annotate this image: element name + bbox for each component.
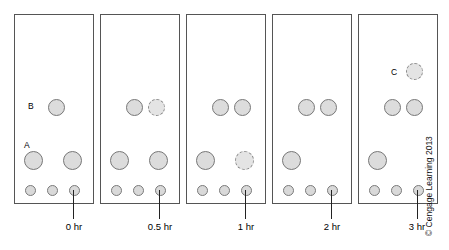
band-spot — [196, 151, 215, 170]
origin-spot — [111, 185, 122, 196]
origin-spot — [155, 185, 166, 196]
copyright-credit-text: © Cengage Learning 2013 — [424, 96, 434, 236]
leader-line-3hr — [417, 190, 418, 219]
origin-spot — [47, 185, 58, 196]
origin-spot — [219, 185, 230, 196]
row-label-a: A — [24, 141, 30, 150]
origin-spot — [69, 185, 80, 196]
lane-plate-05hr — [100, 14, 180, 204]
origin-spot — [25, 185, 36, 196]
leader-line-2hr — [331, 190, 332, 219]
row-label-b: B — [28, 102, 34, 111]
band-spot — [126, 99, 143, 116]
origin-spot — [241, 185, 252, 196]
band-spot — [384, 99, 401, 116]
leader-line-1hr — [245, 190, 246, 219]
origin-spot — [327, 185, 338, 196]
band-spot — [320, 99, 337, 116]
chromatography-figure: B A 0 hr 0.5 hr 1 hr — [0, 0, 449, 250]
origin-spot — [413, 185, 424, 196]
band-spot — [110, 151, 129, 170]
band-spot — [298, 99, 315, 116]
origin-spot — [197, 185, 208, 196]
band-spot — [406, 99, 423, 116]
lane-plate-0hr: B A — [14, 14, 94, 204]
time-label-0hr: 0 hr — [53, 222, 95, 232]
time-label-05hr: 0.5 hr — [136, 222, 184, 232]
row-label-c: C — [391, 68, 397, 77]
time-label-2hr: 2 hr — [311, 222, 353, 232]
leader-line-05hr — [159, 190, 160, 219]
origin-spot — [305, 185, 316, 196]
band-spot — [24, 151, 43, 170]
origin-spot — [133, 185, 144, 196]
origin-spot — [283, 185, 294, 196]
time-label-1hr: 1 hr — [225, 222, 267, 232]
band-spot — [149, 151, 168, 170]
band-spot-faint — [406, 63, 423, 80]
band-spot-faint — [148, 99, 165, 116]
copyright-credit: © Cengage Learning 2013 — [424, 96, 438, 236]
origin-spot — [391, 185, 402, 196]
band-spot — [63, 151, 82, 170]
band-spot-faint — [235, 151, 254, 170]
lane-plate-1hr — [186, 14, 266, 204]
band-spot — [282, 151, 301, 170]
band-spot — [48, 99, 65, 116]
lane-plate-2hr — [272, 14, 352, 204]
band-spot — [234, 99, 251, 116]
leader-line-0hr — [73, 190, 74, 219]
band-spot — [212, 99, 229, 116]
band-spot — [368, 151, 387, 170]
origin-spot — [369, 185, 380, 196]
